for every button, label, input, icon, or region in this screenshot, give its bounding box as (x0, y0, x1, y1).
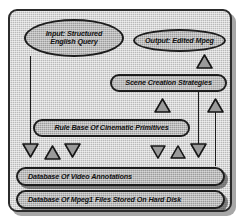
node-label: Output: Edited Mpeg (145, 37, 214, 45)
node-label: Input: Structured English Query (35, 30, 113, 45)
diagram-canvas: Input: Structured English Query Output: … (0, 0, 246, 224)
connector-mpegdb-to-output (215, 106, 216, 166)
arrowhead-down-rulebase-right (150, 145, 166, 159)
node-output-edited-mpeg[interactable]: Output: Edited Mpeg (133, 29, 226, 52)
node-database-of-mpeg-files[interactable]: Database Of Mpeg1 Files Stored On Hard D… (16, 190, 225, 209)
arrowhead-up-annotdb-right (170, 145, 186, 159)
arrowhead-down-rulebase-left (64, 143, 81, 158)
arrowhead-down-input (22, 143, 39, 158)
node-label: Rule Base Of Cinematic Primitives (54, 124, 168, 132)
arrowhead-up-to-output-far-right (207, 98, 224, 113)
arrowhead-up-rulebase-to-strategies (154, 98, 171, 113)
node-database-of-video-annotations[interactable]: Database Of Video Annotations (16, 167, 225, 186)
node-label: Database Of Video Annotations (28, 173, 132, 181)
arrowhead-up-annotdb-left (44, 145, 61, 160)
connector-strategies-to-mpegdb (198, 90, 199, 146)
node-label: Database Of Mpeg1 Files Stored On Hard D… (28, 196, 181, 204)
node-input-structured-english-query[interactable]: Input: Structured English Query (24, 19, 124, 57)
arrowhead-up-strategies-to-output (196, 54, 213, 69)
node-rule-base-of-cinematic-primitives[interactable]: Rule Base Of Cinematic Primitives (33, 119, 190, 137)
node-label: Scene Creation Strategies (125, 79, 212, 87)
connector-input-to-annotdb (30, 56, 31, 144)
node-scene-creation-strategies[interactable]: Scene Creation Strategies (110, 74, 227, 92)
arrowhead-down-strategies (190, 143, 207, 158)
